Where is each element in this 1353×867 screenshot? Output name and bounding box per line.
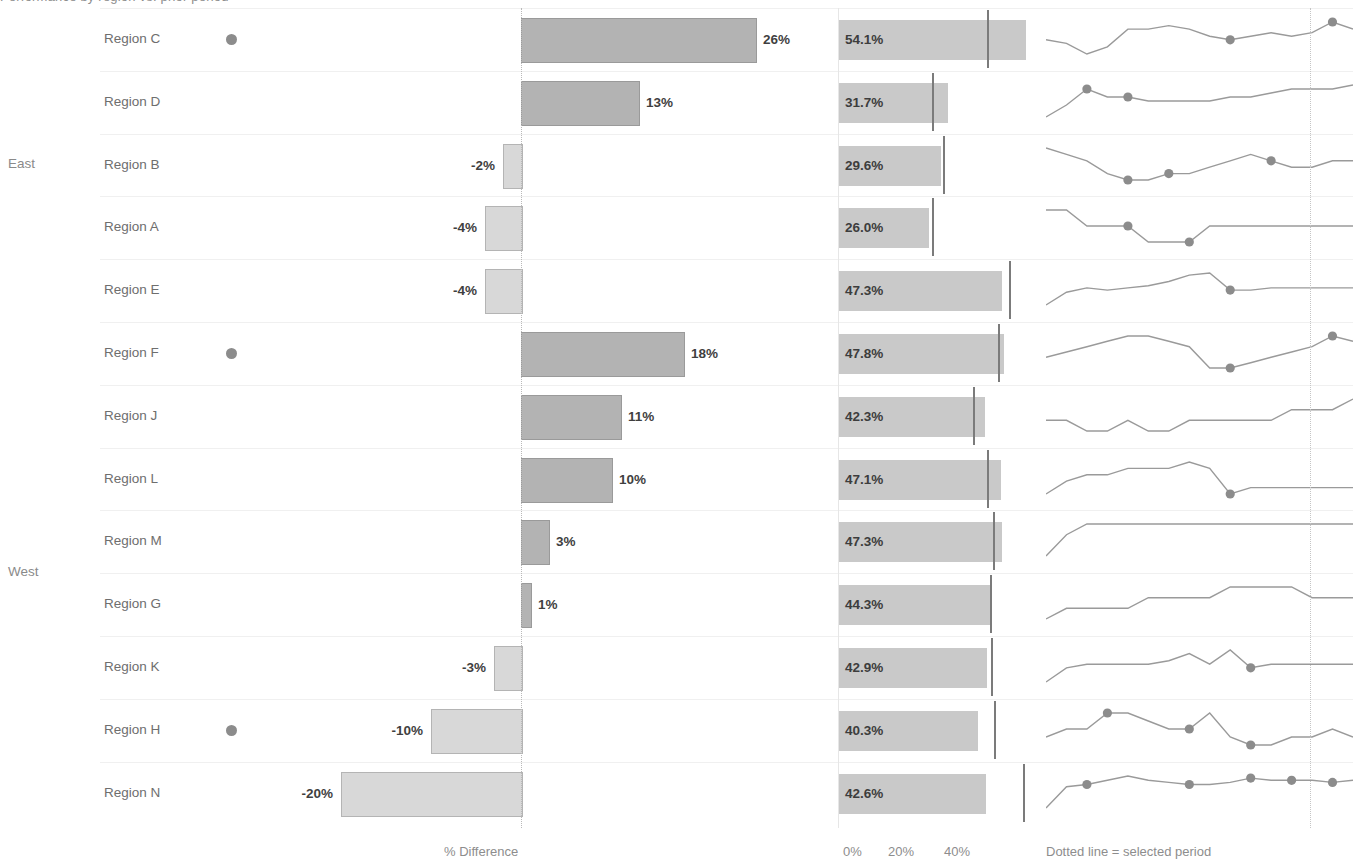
region-label: Region B [104,134,224,197]
table-row[interactable]: Region A-4%26.0% [0,196,1353,259]
rate-value-label: 26.0% [845,208,883,248]
region-label: Region G [104,573,224,636]
difference-bar[interactable] [521,583,532,628]
difference-bar[interactable] [521,395,622,440]
axis-label-pct-difference: % Difference [444,844,518,859]
rate-value-label: 42.9% [845,648,883,688]
difference-bar[interactable] [485,206,523,251]
trend-sparkline[interactable] [1046,200,1353,256]
trend-sparkline[interactable] [1046,640,1353,696]
row-gridline [100,762,1353,763]
axis-tick-0: 0% [843,844,862,859]
table-row[interactable]: Region D13%31.7% [0,71,1353,134]
table-row[interactable]: Region K-3%42.9% [0,636,1353,699]
difference-value-label: -4% [453,269,477,312]
highlight-dot-icon [226,348,237,359]
prior-period-reference-marker [932,198,934,256]
table-row[interactable]: Region N-20%42.6% [0,762,1353,825]
row-gridline [100,699,1353,700]
trend-sparkline[interactable] [1046,389,1353,445]
trend-sparkline[interactable] [1046,263,1353,319]
difference-bar[interactable] [521,332,685,377]
difference-value-label: -10% [391,709,423,752]
table-row[interactable]: Region H-10%40.3% [0,699,1353,762]
trend-sparkline[interactable] [1046,514,1353,570]
difference-value-label: 18% [691,332,718,375]
table-row[interactable]: Region F18%47.8% [0,322,1353,385]
row-gridline [100,196,1353,197]
region-label: Region E [104,259,224,322]
trend-sparkline[interactable] [1046,326,1353,382]
row-gridline [100,573,1353,574]
rate-value-label: 42.6% [845,774,883,814]
legend-dotted-line-note: Dotted line = selected period [1046,844,1211,859]
trend-sparkline[interactable] [1046,577,1353,633]
table-row[interactable]: Region B-2%29.6% [0,134,1353,197]
rate-value-label: 29.6% [845,146,883,186]
small-multiples-chart: Region C26%54.1%Region D13%31.7%Region B… [0,0,1353,867]
difference-value-label: -4% [453,206,477,249]
row-gridline [100,134,1353,135]
rate-value-label: 47.3% [845,271,883,311]
bullet-axis-line [838,8,839,828]
trend-sparkline[interactable] [1046,138,1353,194]
difference-bar[interactable] [521,458,613,503]
difference-value-label: 26% [763,18,790,61]
highlight-dot-icon [226,725,237,736]
prior-period-reference-marker [990,575,992,633]
prior-period-reference-marker [987,450,989,508]
trend-sparkline[interactable] [1046,703,1353,759]
row-gridline [100,8,1353,9]
rate-value-label: 47.1% [845,460,883,500]
table-row[interactable]: Region C26%54.1% [0,8,1353,71]
difference-bar[interactable] [431,709,523,754]
rate-value-label: 40.3% [845,711,883,751]
difference-bar[interactable] [521,81,640,126]
prior-period-reference-marker [1023,764,1025,822]
prior-period-reference-marker [991,638,993,696]
row-gridline [100,510,1353,511]
table-row[interactable]: Region E-4%47.3% [0,259,1353,322]
difference-bar[interactable] [521,520,550,565]
axis-tick-40: 40% [944,844,970,859]
zero-reference-line [521,8,522,828]
difference-bar[interactable] [485,269,523,314]
trend-sparkline[interactable] [1046,12,1353,68]
prior-period-reference-marker [932,73,934,131]
trend-sparkline[interactable] [1046,75,1353,131]
prior-period-reference-marker [987,10,989,68]
table-row[interactable]: Region G1%44.3% [0,573,1353,636]
region-label: Region K [104,636,224,699]
table-row[interactable]: Region M3%47.3% [0,510,1353,573]
row-gridline [100,385,1353,386]
rate-value-label: 42.3% [845,397,883,437]
table-row[interactable]: Region L10%47.1% [0,448,1353,511]
rate-value-label: 44.3% [845,585,883,625]
rate-value-label: 47.3% [845,522,883,562]
row-gridline [100,448,1353,449]
difference-bar[interactable] [494,646,523,691]
rate-value-label: 54.1% [845,20,883,60]
row-gridline [100,71,1353,72]
region-label: Region J [104,385,224,448]
row-gridline [100,636,1353,637]
region-label: Region L [104,448,224,511]
difference-bar[interactable] [503,144,523,189]
prior-period-reference-marker [943,136,945,194]
axis-tick-20: 20% [888,844,914,859]
difference-value-label: 11% [628,395,654,438]
group-label-east: East [8,156,94,171]
table-row[interactable]: Region J11%42.3% [0,385,1353,448]
trend-sparkline[interactable] [1046,452,1353,508]
difference-bar[interactable] [341,772,523,817]
prior-period-reference-marker [973,387,975,445]
difference-value-label: -20% [301,772,333,815]
difference-bar[interactable] [521,18,757,63]
highlight-dot-icon [226,34,237,45]
region-label: Region N [104,762,224,825]
difference-value-label: 3% [556,520,576,563]
prior-period-reference-marker [998,324,1000,382]
difference-value-label: 1% [538,583,558,626]
group-label-west: West [8,564,94,579]
trend-sparkline[interactable] [1046,766,1353,822]
